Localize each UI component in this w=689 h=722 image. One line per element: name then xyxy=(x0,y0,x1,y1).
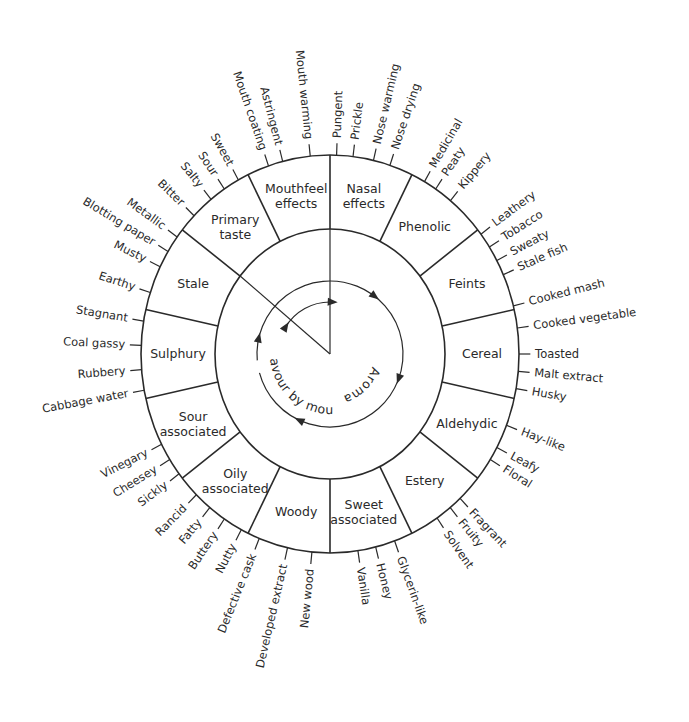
descriptor-label: Mouth warming xyxy=(293,49,316,140)
radial-line-diagonal xyxy=(240,276,330,354)
descriptor-tick xyxy=(460,498,468,507)
segment-label-sour-associated: Sourassociated xyxy=(160,409,227,439)
descriptor-tick xyxy=(218,179,224,189)
aroma-label: Aroma xyxy=(341,365,383,407)
descriptor-tick xyxy=(517,326,528,328)
descriptor-tick xyxy=(170,474,179,481)
descriptor-label: Prickle xyxy=(348,101,367,140)
segment-divider xyxy=(420,432,478,478)
aroma-arrow-path xyxy=(285,302,332,328)
descriptor-tick xyxy=(203,508,210,517)
descriptor-tick xyxy=(158,245,168,251)
segment-labels: MouthfeeleffectsNasaleffectsPhenolicFein… xyxy=(150,181,502,527)
segment-divider xyxy=(248,467,280,534)
descriptor-tick xyxy=(133,390,144,392)
descriptor-tick xyxy=(497,255,507,261)
segment-label-cereal: Cereal xyxy=(462,346,502,361)
descriptor-label: Malt extract xyxy=(534,365,605,385)
arrowhead-icon xyxy=(293,414,305,425)
descriptor-tick xyxy=(506,425,517,429)
descriptor-label: Honey xyxy=(373,562,396,601)
descriptor-tick xyxy=(265,155,269,166)
descriptor-label: Stagnant xyxy=(75,302,129,325)
descriptor-tick xyxy=(425,171,431,181)
descriptor-label: Bitter xyxy=(155,176,188,208)
descriptor-tick xyxy=(311,552,312,564)
flavour-wheel: MouthfeeleffectsNasaleffectsPhenolicFein… xyxy=(0,0,689,722)
descriptor-tick xyxy=(139,289,150,293)
descriptor-label: Earthy xyxy=(97,269,137,294)
descriptor-tick xyxy=(168,230,177,237)
descriptor-tick xyxy=(373,149,376,161)
descriptor-tick xyxy=(188,495,196,503)
segment-divider xyxy=(146,310,218,327)
descriptor-tick xyxy=(436,179,442,189)
descriptor-label: New wood xyxy=(297,568,317,629)
descriptor-tick xyxy=(236,530,241,541)
segment-divider xyxy=(442,310,514,327)
arrowhead-icon xyxy=(393,373,404,385)
descriptor-tick xyxy=(516,389,527,391)
descriptor-label: Cooked mash xyxy=(527,276,606,308)
descriptor-label: Cooked vegetable xyxy=(532,305,637,332)
segment-label-oily-associated: Oilyassociated xyxy=(202,466,269,496)
segment-label-feints: Feints xyxy=(448,276,485,291)
descriptor-tick xyxy=(151,444,161,449)
segment-label-stale: Stale xyxy=(177,276,209,291)
descriptor-tick xyxy=(450,508,457,517)
descriptor-tick xyxy=(437,518,443,528)
segment-label-woody: Woody xyxy=(275,504,318,519)
descriptor-tick xyxy=(503,270,513,275)
descriptor-tick xyxy=(218,519,224,529)
descriptor-tick xyxy=(204,190,211,199)
descriptor-tick xyxy=(309,144,310,156)
descriptor-label: Husky xyxy=(531,384,568,404)
segment-divider xyxy=(146,382,218,399)
descriptor-label: Pungent xyxy=(330,90,346,138)
segment-label-mouthfeel-effects: Mouthfeeleffects xyxy=(265,181,327,211)
descriptor-tick xyxy=(255,539,259,550)
descriptor-tick xyxy=(130,370,141,371)
segment-label-sulphury: Sulphury xyxy=(150,346,206,361)
descriptor-label: Developed extract xyxy=(253,562,291,669)
segment-label-estery: Estery xyxy=(405,473,445,488)
segment-divider xyxy=(442,382,514,399)
descriptor-tick xyxy=(489,241,499,247)
descriptor-label: Cabbage water xyxy=(41,386,130,416)
descriptor-tick xyxy=(518,371,529,372)
descriptor-tick xyxy=(376,547,379,559)
center-arrows xyxy=(240,229,404,427)
descriptor-tick xyxy=(186,207,194,215)
segment-label-nasal-effects: Nasaleffects xyxy=(343,181,385,211)
descriptor-label: Nutty xyxy=(212,541,239,576)
descriptor-tick xyxy=(450,191,457,200)
descriptor-tick xyxy=(395,541,399,552)
descriptor-tick xyxy=(513,303,524,306)
descriptor-label: Hay-like xyxy=(519,424,567,454)
descriptor-tick xyxy=(353,145,354,157)
descriptor-tick xyxy=(390,154,394,165)
descriptor-tick xyxy=(130,345,141,346)
descriptor-labels: Mouth coatingAstringentMouth warmingPung… xyxy=(41,49,637,669)
descriptor-tick xyxy=(233,170,238,180)
descriptor-tick xyxy=(150,262,160,267)
arrowhead-icon xyxy=(254,332,264,344)
descriptor-tick xyxy=(132,319,143,321)
descriptor-label: Glycerin-like xyxy=(394,554,432,626)
arrowhead-icon xyxy=(280,320,292,333)
segment-label-aldehydic: Aldehydic xyxy=(436,416,497,431)
descriptor-label: Toasted xyxy=(534,347,579,361)
descriptor-tick xyxy=(358,551,360,563)
descriptor-label: Vanilla xyxy=(354,566,373,606)
arrowhead-icon xyxy=(328,298,338,307)
segment-divider xyxy=(420,230,478,276)
segment-label-phenolic: Phenolic xyxy=(398,219,451,234)
descriptor-tick xyxy=(285,548,288,560)
descriptor-tick xyxy=(160,459,170,465)
descriptor-tick xyxy=(490,459,500,465)
segment-label-primary-taste: Primarytaste xyxy=(211,212,260,242)
descriptor-tick xyxy=(497,447,507,453)
segment-label-sweet-associated: Sweetassociated xyxy=(330,497,397,527)
descriptor-tick xyxy=(280,150,283,162)
descriptor-label: Rubbery xyxy=(77,363,126,381)
